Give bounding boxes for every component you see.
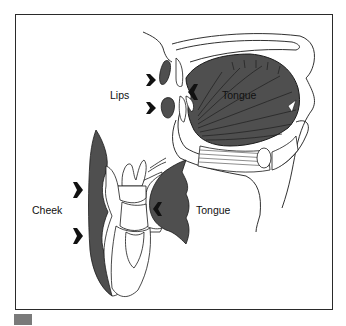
coronal-section xyxy=(89,130,190,297)
arrow-right-icon xyxy=(73,182,83,198)
arrow-right-icon xyxy=(73,228,83,244)
corner-tab xyxy=(14,314,32,325)
label-lips: Lips xyxy=(110,90,129,101)
label-cheek: Cheek xyxy=(32,205,62,216)
arrow-right-icon xyxy=(146,102,156,114)
label-tongue-sagittal: Tongue xyxy=(222,90,256,101)
arrow-right-icon xyxy=(146,74,156,86)
label-tongue-coronal: Tongue xyxy=(196,205,230,216)
oral-anatomy-illustration xyxy=(0,0,346,326)
